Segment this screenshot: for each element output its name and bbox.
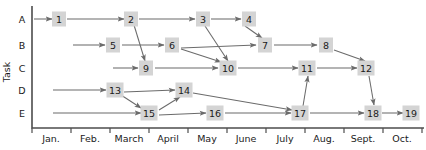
x-axis-label-april: April: [157, 133, 179, 144]
x-axis-label-may: May: [197, 133, 217, 144]
edge-15-to-16: [159, 113, 206, 115]
node-label-12: 12: [360, 63, 372, 74]
edge-15-to-14: [159, 97, 180, 110]
x-axis-label-sept: Sept.: [351, 133, 376, 144]
node-label-2: 2: [128, 14, 134, 25]
edge-13-to-15: [121, 95, 141, 108]
labels-layer: ABCDEJan.Feb.MarchAprilMayJuneJulyAug.Se…: [18, 14, 411, 144]
node-label-15: 15: [143, 108, 155, 119]
node-label-11: 11: [301, 63, 313, 74]
edge-8-to-12: [334, 50, 365, 61]
edge-6-to-10: [181, 49, 221, 62]
y-axis-title: Task: [1, 61, 12, 83]
y-axis-label-E: E: [19, 108, 25, 119]
node-label-1: 1: [56, 14, 62, 25]
node-label-9: 9: [143, 63, 149, 74]
y-axis-label-B: B: [19, 40, 26, 51]
node-label-4: 4: [246, 14, 252, 25]
node-label-5: 5: [110, 40, 116, 51]
x-axis-label-march: March: [115, 133, 144, 144]
node-label-18: 18: [367, 108, 379, 119]
gantt-network-diagram: 12345678910111213141516171819 ABCDEJan.F…: [0, 0, 426, 150]
y-axis-label-D: D: [18, 85, 25, 96]
nodes-layer: 12345678910111213141516171819: [52, 12, 420, 121]
x-axis-label-july: July: [275, 133, 293, 144]
node-label-19: 19: [405, 108, 417, 119]
x-axis-label-jan: Jan.: [41, 133, 60, 144]
edge-4-to-7: [245, 26, 262, 38]
node-label-8: 8: [323, 40, 329, 51]
node-label-17: 17: [294, 108, 306, 119]
node-label-6: 6: [169, 40, 175, 51]
edge-17-to-11: [303, 76, 308, 106]
x-axis-label-feb: Feb.: [80, 133, 100, 144]
node-label-16: 16: [209, 108, 221, 119]
edges-layer: [34, 19, 403, 115]
x-axis-label-aug: Aug.: [313, 133, 335, 144]
node-label-10: 10: [222, 63, 234, 74]
x-axis-label-oct: Oct.: [392, 133, 411, 144]
diagram-canvas: 12345678910111213141516171819 ABCDEJan.F…: [0, 0, 426, 150]
y-axis-label-A: A: [19, 14, 26, 25]
edge-3-to-10: [205, 26, 228, 61]
edge-2-to-9: [134, 25, 145, 61]
y-axis-label-C: C: [19, 63, 26, 74]
node-label-7: 7: [262, 40, 268, 51]
node-label-14: 14: [178, 85, 190, 96]
node-label-13: 13: [109, 85, 121, 96]
x-axis-label-june: June: [235, 133, 257, 144]
edge-13-to-14: [124, 90, 175, 92]
edge-12-to-18: [369, 76, 374, 105]
node-label-3: 3: [200, 14, 206, 25]
